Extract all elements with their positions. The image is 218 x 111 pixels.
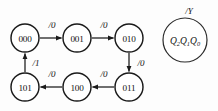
state-node-001[interactable]: 001 <box>63 24 91 52</box>
state-label-101: 101 <box>18 83 32 93</box>
legend-state-vars: Q2Q1Q0 <box>170 36 201 47</box>
state-label-011: 011 <box>123 83 136 93</box>
edge-label-100-101: /0 <box>47 69 56 79</box>
state-nodes: 000 001 010 011 100 101 <box>11 24 143 101</box>
state-label-100: 100 <box>70 83 84 93</box>
legend-key: /Y Q2Q1Q0 <box>163 6 207 62</box>
state-node-100[interactable]: 100 <box>63 73 91 101</box>
state-node-000[interactable]: 000 <box>11 24 39 52</box>
state-node-101[interactable]: 101 <box>11 73 39 101</box>
edge-label-001-010: /0 <box>99 20 108 30</box>
state-node-010[interactable]: 010 <box>115 24 143 52</box>
diagram-canvas: 000 001 010 011 100 101 <box>0 0 218 111</box>
legend-output-label: /Y <box>184 6 194 16</box>
state-node-011[interactable]: 011 <box>115 73 143 101</box>
state-label-010: 010 <box>122 34 136 44</box>
edge-label-011-100: /0 <box>99 69 108 79</box>
edge-label-101-000: /1 <box>31 58 39 68</box>
state-label-000: 000 <box>18 34 32 44</box>
state-label-001: 001 <box>70 34 84 44</box>
edge-label-010-011: /0 <box>136 58 145 68</box>
state-diagram: 000 001 010 011 100 101 <box>0 0 218 111</box>
edge-label-000-001: /0 <box>47 20 56 30</box>
